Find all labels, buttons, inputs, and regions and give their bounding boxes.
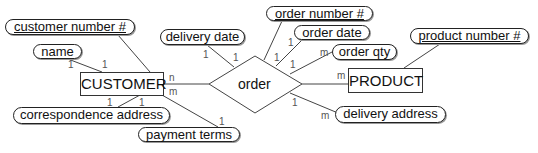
attribute-order-qty: order qty [332,44,397,60]
attribute-order-number: order number # [266,6,373,21]
cardinality-customer-order-m: m [169,87,177,97]
cardinality-delivery-address-top: 1 [292,98,298,108]
attribute-customer-number: customer number # [5,19,135,35]
cardinality-corr-left: 1 [107,98,113,108]
attribute-product-number: product number # [410,28,529,44]
cardinality-payment-terms: 1 [219,117,225,127]
cardinality-order-qty: m [320,48,328,58]
cardinality-order-date-bottom: 1 [290,60,296,70]
cardinality-order-date-top: 1 [288,38,294,48]
attribute-order-date: order date [294,25,370,40]
cardinality-name-right: 1 [102,60,108,70]
cardinality-name-left: 1 [68,60,74,70]
attribute-correspondence-address: correspondence address [13,107,170,124]
cardinality-delivery-date-left: 1 [203,50,209,60]
cardinality-delivery-date-right: 1 [233,53,239,63]
cardinality-customer-order-n: n [169,73,175,83]
entity-customer: CUSTOMER [80,72,164,96]
cardinality-corr-right: 1 [139,98,145,108]
attribute-delivery-address: delivery address [335,106,446,123]
attribute-delivery-date: delivery date [160,29,245,45]
cardinality-order-product: m [337,71,345,81]
attribute-payment-terms: payment terms [138,127,240,142]
cardinality-delivery-address-bottom: m [321,111,329,121]
entity-customer-label: CUSTOMER [81,75,167,92]
entity-product: PRODUCT [348,68,423,93]
attribute-name: name [33,44,82,59]
relationship-order-label: order [238,76,271,92]
cardinality-order-number: 1 [274,53,280,63]
er-diagram: order CUSTOMER PRODUCT customer number #… [0,0,538,153]
entity-product-label: PRODUCT [349,72,423,89]
